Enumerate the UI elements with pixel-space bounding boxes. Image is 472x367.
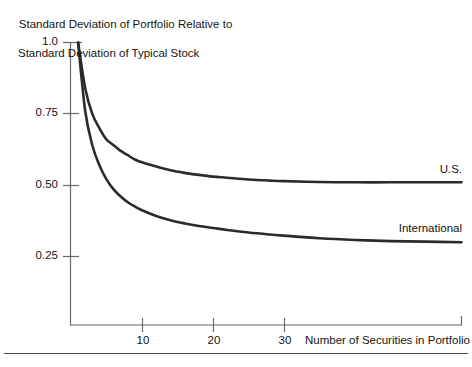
x-axis-title: Number of Securities in Portfolio xyxy=(305,334,470,346)
y-axis-title-line-1: Standard Deviation of Portfolio Relative… xyxy=(19,18,233,30)
series-label-us: U.S. xyxy=(330,163,462,175)
y-tick-label-1.0: 1.0 xyxy=(18,35,58,47)
chart-figure: Standard Deviation of Portfolio Relative… xyxy=(0,0,472,367)
footer-rule xyxy=(4,353,468,354)
x-tick-label-10: 10 xyxy=(128,334,158,346)
y-tick-label-0.50: 0.50 xyxy=(18,178,58,190)
x-tick-label-20: 20 xyxy=(199,334,229,346)
series-label-international: International xyxy=(310,222,462,234)
y-tick-label-0.75: 0.75 xyxy=(18,106,58,118)
y-axis-title-line-2: Standard Deviation of Typical Stock xyxy=(6,46,266,61)
x-tick-label-30: 30 xyxy=(270,334,300,346)
y-tick-label-0.25: 0.25 xyxy=(18,249,58,261)
